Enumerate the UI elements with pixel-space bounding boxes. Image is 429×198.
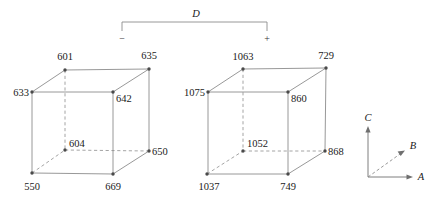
axis-b-line bbox=[368, 154, 400, 177]
factor-d-bracket bbox=[122, 22, 267, 31]
cube2-vertex-dot-1052 bbox=[241, 149, 244, 152]
cube1-label-front-bottom-right: 669 bbox=[105, 182, 121, 193]
cube1-vertex-dot-669 bbox=[111, 172, 114, 175]
axis-a-arrowhead bbox=[407, 174, 414, 179]
cube1-label-back-top-right: 635 bbox=[141, 51, 157, 62]
cube1-hidden-bottom-edge bbox=[65, 150, 149, 151]
axes-legend-graphic bbox=[365, 126, 413, 180]
axis-label-b: B bbox=[410, 141, 416, 152]
cube2-vertex-dot-729 bbox=[324, 66, 327, 69]
cube2-label-front-top-right: 860 bbox=[291, 94, 307, 105]
cube2-vertex-dot-749 bbox=[286, 172, 289, 175]
cube1-label-front-top-right: 642 bbox=[116, 94, 132, 105]
figure-canvas: D − + 601 635 633 642 604 650 550 669 10… bbox=[0, 0, 429, 198]
axis-c-arrowhead bbox=[365, 126, 370, 133]
cube2-hidden-depth-edge-left bbox=[207, 151, 243, 174]
cube-d-high-graphic bbox=[205, 66, 327, 175]
cube2-label-front-bottom-left: 1037 bbox=[199, 182, 220, 193]
factor-d-high-sign: + bbox=[264, 34, 270, 44]
cube1-vertex-dot-604 bbox=[63, 148, 66, 151]
cube2-vertex-dot-860 bbox=[286, 90, 289, 93]
cube2-label-back-bottom-left: 1052 bbox=[247, 139, 268, 150]
cube2-top-back-edge bbox=[243, 68, 326, 69]
cube1-top-depth-edge-left bbox=[32, 70, 65, 92]
cube1-top-back-edge bbox=[65, 69, 149, 70]
cube1-bottom-front-edge bbox=[32, 173, 113, 174]
cube1-vertex-dot-550 bbox=[30, 171, 33, 174]
cube2-vertex-dot-1063 bbox=[241, 67, 244, 70]
cube1-hidden-depth-edge-left bbox=[32, 150, 65, 173]
cube1-label-front-top-left: 633 bbox=[13, 88, 29, 99]
axis-b-arrowhead bbox=[398, 151, 405, 156]
factor-d-low-sign: − bbox=[119, 34, 125, 44]
cube1-top-depth-edge-right bbox=[113, 69, 149, 92]
cube-d-low-graphic bbox=[30, 67, 150, 175]
cube2-back-right-vertical-edge bbox=[325, 68, 326, 151]
cube2-label-front-bottom-right: 749 bbox=[280, 182, 296, 193]
cube1-vertex-dot-601 bbox=[63, 68, 66, 71]
factor-d-label: D bbox=[192, 9, 200, 20]
cube2-top-depth-edge-right bbox=[288, 68, 326, 92]
cube2-label-back-bottom-right: 868 bbox=[328, 147, 344, 158]
cube1-vertex-dot-650 bbox=[147, 149, 150, 152]
cube2-label-front-top-left: 1075 bbox=[184, 88, 205, 99]
cube2-bottom-depth-edge-right bbox=[288, 151, 325, 174]
cube1-vertex-dot-633 bbox=[30, 90, 33, 93]
cube-plot-graphic bbox=[0, 0, 429, 198]
cube2-vertex-dot-1075 bbox=[206, 90, 209, 93]
cube1-label-back-bottom-right: 650 bbox=[152, 147, 168, 158]
cube1-bottom-depth-edge-right bbox=[113, 151, 149, 174]
cube2-label-back-top-left: 1063 bbox=[233, 52, 254, 63]
cube2-label-back-top-right: 729 bbox=[318, 51, 334, 62]
axis-label-c: C bbox=[364, 113, 371, 124]
cube1-label-front-bottom-left: 550 bbox=[24, 182, 40, 193]
cube1-label-back-top-left: 601 bbox=[57, 52, 73, 63]
cube1-vertex-dot-635 bbox=[147, 67, 150, 70]
cube2-top-depth-edge-left bbox=[208, 69, 243, 92]
cube2-vertex-dot-868 bbox=[323, 149, 326, 152]
cube1-vertex-dot-642 bbox=[111, 90, 114, 93]
axis-label-a: A bbox=[418, 172, 424, 183]
cube2-vertex-dot-1037 bbox=[205, 172, 208, 175]
cube1-label-back-bottom-left: 604 bbox=[69, 139, 85, 150]
